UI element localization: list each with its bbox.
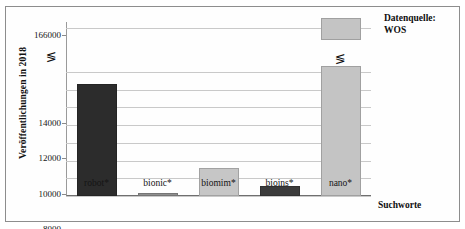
x-tick-label-bionic: bionic* xyxy=(143,178,172,188)
bar-nano-upper[interactable] xyxy=(321,18,361,40)
bars-group: ≶ xyxy=(66,22,371,196)
y-tick-label: 14000 xyxy=(1,118,66,128)
bar-slot xyxy=(260,22,300,196)
bar-break-icon: ≶ xyxy=(334,52,347,65)
x-tick-label-robot: robot* xyxy=(84,178,109,188)
x-axis-title: Suchworte xyxy=(378,200,421,210)
bar-slot xyxy=(77,22,117,196)
plot-area: 02000400060008000100001200014000166000≶ … xyxy=(66,22,371,196)
chart-figure: Veröffentlichungen in 2018 0200040006000… xyxy=(0,0,465,229)
data-source-line1: Datenquelle: xyxy=(384,12,436,24)
y-axis-break-icon: ≶ xyxy=(46,50,57,63)
y-tick-label: 166000 xyxy=(1,30,66,40)
bar-slot: ≶ xyxy=(321,22,361,196)
x-tick-label-bioins: bioins* xyxy=(266,178,294,188)
y-tick-label: 12000 xyxy=(1,153,66,163)
gridline: 0 xyxy=(66,196,371,197)
x-tick-label-biomim: biomim* xyxy=(201,178,235,188)
bar-slot xyxy=(138,22,178,196)
data-source-line2: WOS xyxy=(384,24,436,36)
bar-nano-lower[interactable] xyxy=(321,66,361,196)
y-tick-label: 10000 xyxy=(1,189,66,199)
data-source-annotation: Datenquelle: WOS xyxy=(384,12,436,36)
y-tick-label: 8000 xyxy=(1,224,66,229)
bar-slot xyxy=(199,22,239,196)
x-tick-label-nano: nano* xyxy=(329,178,352,188)
bar-bionic[interactable] xyxy=(138,193,178,196)
